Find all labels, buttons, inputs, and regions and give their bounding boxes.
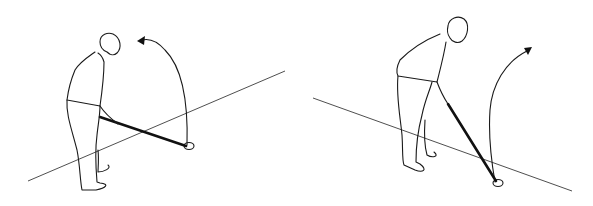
arrowhead-right-icon	[524, 47, 532, 55]
golfer-torso-right	[397, 34, 446, 82]
ground-line-left	[28, 71, 285, 181]
club-shaft-right	[448, 104, 496, 181]
left-panel	[28, 33, 285, 190]
illustration	[0, 0, 593, 206]
ground-line-right	[313, 98, 572, 191]
arrowhead-left-icon	[137, 36, 145, 45]
right-panel	[313, 17, 572, 191]
golfer-head-right	[447, 17, 467, 42]
swing-arc-right	[489, 51, 527, 182]
golfer-head-left	[100, 33, 120, 55]
club-shaft-left	[100, 117, 186, 146]
golfer-rear-foot-left	[98, 150, 109, 172]
golf-swing-diagram	[0, 0, 593, 206]
golfer-torso-left	[67, 52, 104, 106]
golfer-legs-left	[67, 100, 106, 190]
golfer-arm-right	[437, 82, 448, 104]
golfer-legs-right	[397, 76, 432, 171]
